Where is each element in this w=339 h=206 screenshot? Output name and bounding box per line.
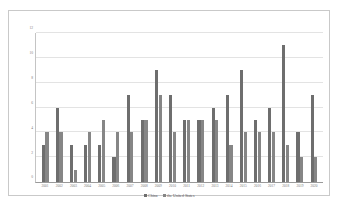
legend-item[interactable]: China <box>144 193 158 198</box>
bar-group: 2012 <box>194 33 208 182</box>
bar <box>88 132 91 182</box>
x-axis-tick-label: 2011 <box>183 185 190 189</box>
bar-group: 2016 <box>250 33 264 182</box>
bar-group: 2009 <box>151 33 165 182</box>
plot-area: 024681012 200120022003200420052006200720… <box>35 33 323 183</box>
bar-group: 2008 <box>137 33 151 182</box>
x-axis-tick-label: 2014 <box>226 185 233 189</box>
x-axis-tick-label: 2019 <box>296 185 303 189</box>
bar <box>244 132 247 182</box>
bar-groups: 2001200220032004200520062007200820092010… <box>36 33 323 182</box>
bar <box>59 132 62 182</box>
bar-group: 2011 <box>180 33 194 182</box>
x-axis-tick-label: 2004 <box>84 185 91 189</box>
bar <box>74 170 77 182</box>
x-axis-tick-label: 2018 <box>282 185 289 189</box>
bar <box>102 120 105 182</box>
bar <box>286 145 289 182</box>
bar-group: 2017 <box>265 33 279 182</box>
x-axis-tick-label: 2002 <box>56 185 63 189</box>
bar-group: 2010 <box>165 33 179 182</box>
bar-group: 2015 <box>236 33 250 182</box>
x-axis-tick-label: 2016 <box>254 185 261 189</box>
bar <box>159 95 162 182</box>
figure-frame: 024681012 200120022003200420052006200720… <box>8 10 330 196</box>
chart-legend: Chinathe United States <box>9 193 329 198</box>
bar <box>272 132 275 182</box>
legend-item[interactable]: the United States <box>163 193 195 198</box>
y-axis-tick-label: 4 <box>31 127 33 131</box>
x-axis-tick-label: 2008 <box>141 185 148 189</box>
x-axis-tick-label: 2013 <box>211 185 218 189</box>
bar-group: 2003 <box>66 33 80 182</box>
y-axis-tick-label: 2 <box>31 152 33 156</box>
x-axis-tick-label: 2007 <box>127 185 134 189</box>
bar <box>187 120 190 182</box>
legend-label: the United States <box>167 193 194 198</box>
x-axis-tick-label: 2009 <box>155 185 162 189</box>
bar <box>173 132 176 182</box>
bar <box>258 132 261 182</box>
bar-group: 2002 <box>52 33 66 182</box>
bar <box>144 120 147 182</box>
bar-group: 2019 <box>293 33 307 182</box>
bar <box>229 145 232 182</box>
bar <box>215 120 218 182</box>
bar-group: 2018 <box>279 33 293 182</box>
chart-screenshot: 024681012 200120022003200420052006200720… <box>0 0 339 206</box>
bar <box>314 157 317 182</box>
x-axis-tick-label: 2010 <box>169 185 176 189</box>
legend-label: China <box>148 193 158 198</box>
x-axis-tick-label: 2020 <box>311 185 318 189</box>
y-axis-tick-label: 12 <box>29 28 33 32</box>
bar-group: 2004 <box>80 33 94 182</box>
bar <box>130 132 133 182</box>
bar-group: 2006 <box>109 33 123 182</box>
x-axis-tick-label: 2003 <box>70 185 77 189</box>
bar-group: 2020 <box>307 33 321 182</box>
x-axis-tick-label: 2006 <box>112 185 119 189</box>
legend-swatch-icon <box>144 194 147 197</box>
y-axis-tick-label: 0 <box>31 177 33 181</box>
legend-swatch-icon <box>163 194 166 197</box>
bar-group: 2007 <box>123 33 137 182</box>
bar <box>116 132 119 182</box>
x-axis-tick-label: 2005 <box>98 185 105 189</box>
bar <box>201 120 204 182</box>
bar <box>300 157 303 182</box>
bar-group: 2014 <box>222 33 236 182</box>
x-axis-tick-label: 2001 <box>42 185 49 189</box>
y-axis-tick-label: 8 <box>31 77 33 81</box>
bar-group: 2005 <box>95 33 109 182</box>
x-axis-tick-label: 2017 <box>268 185 275 189</box>
y-axis-tick-label: 10 <box>29 52 33 56</box>
y-axis-tick-label: 6 <box>31 102 33 106</box>
bar <box>45 132 48 182</box>
bar-group: 2013 <box>208 33 222 182</box>
x-axis-tick-label: 2015 <box>240 185 247 189</box>
x-axis-tick-label: 2012 <box>197 185 204 189</box>
bar-group: 2001 <box>38 33 52 182</box>
